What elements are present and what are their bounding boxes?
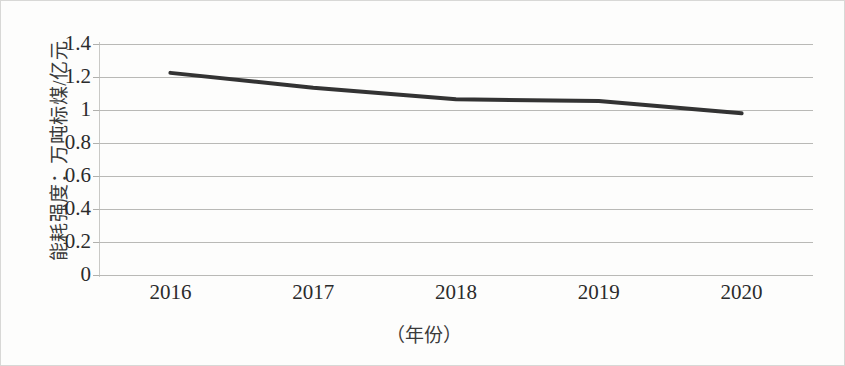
- y-axis-tick-label: 0: [31, 264, 91, 285]
- x-axis-tick-label: 2016: [115, 282, 225, 303]
- series-layer: [99, 44, 813, 275]
- y-axis-tick-mark: [93, 275, 99, 276]
- x-axis-tick-label: 2017: [258, 282, 368, 303]
- x-axis-title: （年份）: [1, 320, 845, 347]
- y-axis-tick-mark: [93, 242, 99, 243]
- x-axis-tick-label: 2020: [687, 282, 797, 303]
- y-axis-tick-labels: 1.41.210.80.60.40.20: [29, 1, 91, 366]
- y-axis-tick-label: 1: [31, 99, 91, 120]
- y-axis-tick-mark: [93, 44, 99, 45]
- y-axis-tick-mark: [93, 176, 99, 177]
- y-axis-tick-label: 0.4: [31, 198, 91, 219]
- y-axis-tick-label: 1.4: [31, 33, 91, 54]
- x-axis-tick-label: 2019: [544, 282, 654, 303]
- y-axis-tick-label: 1.2: [31, 66, 91, 87]
- x-axis-tick-label: 2018: [401, 282, 511, 303]
- data-line-energy-intensity: [170, 73, 741, 113]
- gridline: [99, 275, 813, 276]
- y-axis-tick-label: 0.6: [31, 165, 91, 186]
- y-axis-tick-label: 0.2: [31, 231, 91, 252]
- y-axis-tick-mark: [93, 77, 99, 78]
- y-axis-tick-mark: [93, 209, 99, 210]
- chart-figure: 能耗强度：万吨标煤/亿元 1.41.210.80.60.40.20 201620…: [0, 0, 845, 366]
- y-axis-tick-mark: [93, 110, 99, 111]
- plot-area: [99, 44, 813, 275]
- y-axis-tick-mark: [93, 143, 99, 144]
- y-axis-tick-label: 0.8: [31, 132, 91, 153]
